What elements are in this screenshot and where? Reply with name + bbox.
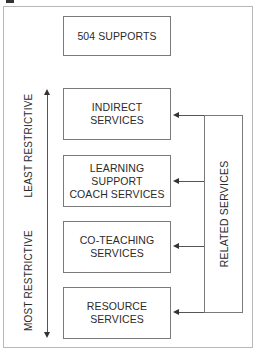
- box-co-teaching-label: CO-TEACHING SERVICES: [80, 234, 155, 260]
- arrow-to-co-teaching: [176, 246, 204, 247]
- box-learning-support-coach-services: LEARNING SUPPORT COACH SERVICES: [63, 155, 171, 207]
- box-resource-services: RESOURCE SERVICES: [63, 287, 171, 339]
- box-indirect-services-label: INDIRECT SERVICES: [90, 101, 144, 127]
- arrow-to-resource: [176, 312, 204, 313]
- arrow-to-learning-support: [176, 181, 204, 182]
- box-co-teaching-services: CO-TEACHING SERVICES: [63, 221, 171, 273]
- box-504-supports-label: 504 SUPPORTS: [77, 30, 156, 43]
- arrow-to-indirect: [176, 115, 204, 116]
- restrictiveness-axis-line: [47, 94, 48, 332]
- box-learning-support-label: LEARNING SUPPORT COACH SERVICES: [69, 162, 164, 201]
- box-resource-services-label: RESOURCE SERVICES: [87, 300, 147, 326]
- arrowhead-left-icon: [173, 309, 179, 315]
- arrowhead-left-icon: [173, 178, 179, 184]
- least-restrictive-label: LEAST RESTRICTIVE: [23, 91, 34, 201]
- box-504-supports: 504 SUPPORTS: [63, 16, 171, 56]
- related-services-label: RELATED SERVICES: [218, 159, 230, 269]
- box-indirect-services: INDIRECT SERVICES: [63, 88, 171, 140]
- most-restrictive-label: MOST RESTRICTIVE: [23, 226, 34, 336]
- arrowhead-down-icon: [44, 332, 50, 338]
- arrowhead-up-icon: [44, 89, 50, 95]
- arrowhead-left-icon: [173, 112, 179, 118]
- figure-mark: [6, 0, 14, 3]
- arrowhead-left-icon: [173, 243, 179, 249]
